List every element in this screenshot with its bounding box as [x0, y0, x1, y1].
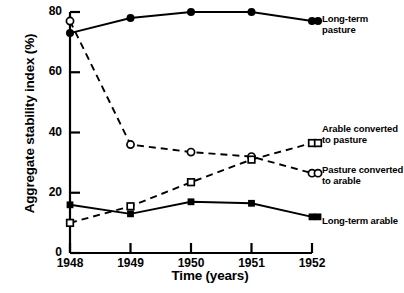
y-tick-label: 60 [22, 64, 62, 78]
data-point [127, 14, 135, 22]
data-point [248, 200, 255, 207]
chart-figure: Aggregate stability index (%) Time (year… [0, 0, 404, 293]
series-end-marker [314, 17, 322, 25]
data-point [188, 179, 195, 186]
x-tick-label: 1951 [222, 256, 282, 270]
series-end-marker [315, 140, 322, 147]
data-point [187, 148, 194, 155]
x-tick-label: 1950 [161, 256, 221, 270]
chart-series-layer [66, 8, 322, 226]
y-tick-label: 80 [22, 4, 62, 18]
data-point [248, 156, 255, 163]
data-point [127, 203, 134, 210]
data-point [67, 201, 74, 208]
chart-series-pasture-converted-to-arable [66, 17, 321, 176]
data-point [248, 8, 256, 16]
data-point [309, 213, 316, 220]
series-end-marker [314, 170, 321, 177]
data-point [66, 17, 73, 24]
chart-axes [70, 12, 312, 253]
data-point [67, 220, 74, 227]
chart-series-long-term-pasture [66, 8, 322, 37]
x-tick-label: 1949 [101, 256, 161, 270]
series-end-marker [315, 213, 322, 220]
series-label-long-term-pasture: Long-term pasture [322, 14, 404, 35]
series-label-arable-converted-to-pasture: Arable converted to pasture [322, 124, 398, 145]
y-tick-label: 0 [22, 245, 62, 259]
series-label-pasture-converted-to-arable: Pasture converted to arable [322, 165, 403, 186]
data-point [188, 198, 195, 205]
y-axis-label: Aggregate stability index (%) [22, 9, 37, 239]
data-point [66, 29, 74, 37]
y-tick-label: 40 [22, 125, 62, 139]
data-point [187, 8, 195, 16]
series-label-long-term-arable: Long-term arable [322, 216, 398, 227]
data-point [127, 210, 134, 217]
x-axis-label: Time (years) [130, 268, 290, 283]
x-tick-label: 1952 [282, 256, 342, 270]
y-tick-label: 20 [22, 185, 62, 199]
data-point [127, 141, 134, 148]
chart-series-long-term-arable [67, 198, 322, 220]
